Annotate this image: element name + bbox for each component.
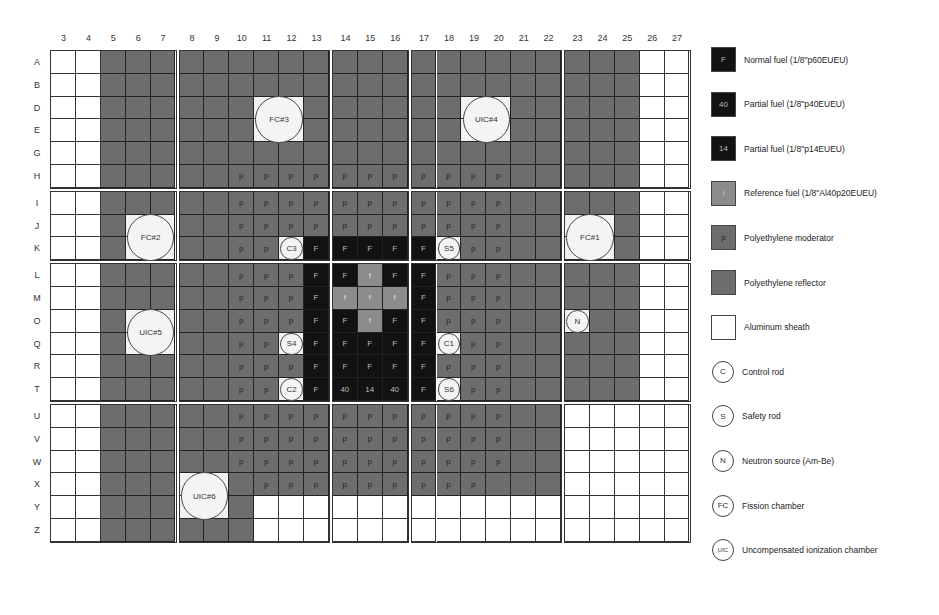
- reflector-cell: [383, 51, 408, 74]
- aluminum-sheath-cell: [51, 51, 76, 74]
- reference-fuel-cell: f: [333, 287, 358, 310]
- reflector-cell: [101, 192, 126, 215]
- normal-fuel-cell: F: [333, 237, 358, 260]
- reflector-cell: [180, 119, 205, 142]
- reflector-cell: [204, 264, 229, 287]
- reflector-cell: [180, 287, 205, 310]
- moderator-cell: p: [333, 405, 358, 428]
- reflector-cell: [151, 405, 176, 428]
- aluminum-sheath-cell: [565, 519, 590, 542]
- row-label: K: [30, 237, 44, 260]
- neutron-source-marker: N: [566, 310, 589, 333]
- aluminum-sheath-cell: [665, 355, 690, 378]
- moderator-cell: p: [383, 215, 408, 238]
- aluminum-sheath-cell: [665, 142, 690, 165]
- aluminum-sheath-cell: [412, 496, 437, 519]
- moderator-cell: p: [383, 165, 408, 188]
- reflector-cell: [333, 97, 358, 120]
- reflector-cell: [126, 451, 151, 474]
- moderator-cell: p: [461, 310, 486, 333]
- moderator-cell: p: [383, 428, 408, 451]
- aluminum-sheath-cell: [665, 405, 690, 428]
- aluminum-sheath-cell: [640, 97, 665, 120]
- reflector-cell: [180, 264, 205, 287]
- aluminum-sheath-cell: [51, 119, 76, 142]
- moderator-cell: p: [486, 264, 511, 287]
- aluminum-sheath-cell: [665, 97, 690, 120]
- legend-label: Safety rod: [742, 411, 781, 421]
- reflector-cell: [151, 165, 176, 188]
- reflector-cell: [151, 519, 176, 542]
- reflector-cell: [204, 333, 229, 356]
- aluminum-sheath-cell: [665, 237, 690, 260]
- reflector-cell: [565, 142, 590, 165]
- normal-fuel-cell: F: [383, 355, 408, 378]
- aluminum-sheath-cell: [565, 496, 590, 519]
- row-label: D: [30, 97, 44, 120]
- row-label: U: [30, 405, 44, 428]
- moderator-cell: p: [437, 310, 462, 333]
- reflector-cell: [279, 51, 304, 74]
- reflector-cell: [101, 378, 126, 401]
- moderator-cell: p: [486, 310, 511, 333]
- normal-fuel-cell: F: [304, 237, 329, 260]
- reflector-cell: [180, 51, 205, 74]
- aluminum-sheath-cell: [412, 519, 437, 542]
- row-label: T: [30, 378, 44, 401]
- moderator-cell: p: [254, 237, 279, 260]
- aluminum-sheath-cell: [333, 496, 358, 519]
- reflector-cell: [101, 310, 126, 333]
- moderator-cell: p: [486, 215, 511, 238]
- aluminum-sheath-cell: [76, 333, 101, 356]
- reflector-cell: [180, 215, 205, 238]
- row-label: G: [30, 142, 44, 165]
- normal-fuel-cell: F: [304, 355, 329, 378]
- moderator-cell: p: [304, 405, 329, 428]
- normal-fuel-cell: F: [383, 333, 408, 356]
- reflector-cell: [590, 264, 615, 287]
- legend-item: FCFission chamber: [711, 493, 804, 518]
- aluminum-sheath-cell: [665, 428, 690, 451]
- reflector-cell: [333, 51, 358, 74]
- moderator-cell: p: [461, 287, 486, 310]
- normal-fuel-cell: F: [333, 333, 358, 356]
- aluminum-sheath-cell: [279, 496, 304, 519]
- reflector-cell: [151, 97, 176, 120]
- reflector-cell: [151, 428, 176, 451]
- moderator-cell: p: [304, 451, 329, 474]
- moderator-cell: p: [279, 473, 304, 496]
- aluminum-sheath-cell: [590, 428, 615, 451]
- reflector-cell: [486, 142, 511, 165]
- normal-fuel-cell: F: [412, 355, 437, 378]
- reflector-cell: [511, 192, 536, 215]
- reflector-cell: [511, 405, 536, 428]
- reflector-cell: [536, 451, 561, 474]
- column-label: 12: [279, 33, 304, 43]
- aluminum-sheath-cell: [590, 405, 615, 428]
- reflector-cell: [180, 428, 205, 451]
- aluminum-sheath-cell: [279, 519, 304, 542]
- legend-label: Uncompensated ionization chamber: [742, 545, 878, 555]
- normal-fuel-icon: F: [711, 47, 736, 72]
- aluminum-sheath-cell: [536, 519, 561, 542]
- reflector-cell: [204, 215, 229, 238]
- reflector-cell: [229, 473, 254, 496]
- moderator-cell: p: [358, 451, 383, 474]
- moderator-cell: p: [358, 405, 383, 428]
- aluminum-sheath-cell: [486, 519, 511, 542]
- aluminum-sheath-cell: [76, 165, 101, 188]
- moderator-cell: p: [461, 237, 486, 260]
- reflector-cell: [615, 287, 640, 310]
- reference-fuel-cell: f: [358, 310, 383, 333]
- moderator-cell: p: [254, 192, 279, 215]
- aluminum-sheath-cell: [565, 428, 590, 451]
- reflector-cell: [486, 74, 511, 97]
- aluminum-sheath-cell: [76, 74, 101, 97]
- aluminum-sheath-cell: [640, 451, 665, 474]
- legend-label: Polyethylene moderator: [744, 233, 834, 243]
- reflector-cell: [101, 519, 126, 542]
- reflector-cell: [565, 74, 590, 97]
- aluminum-sheath-cell: [76, 287, 101, 310]
- reflector-cell: [101, 264, 126, 287]
- reflector-cell: [486, 51, 511, 74]
